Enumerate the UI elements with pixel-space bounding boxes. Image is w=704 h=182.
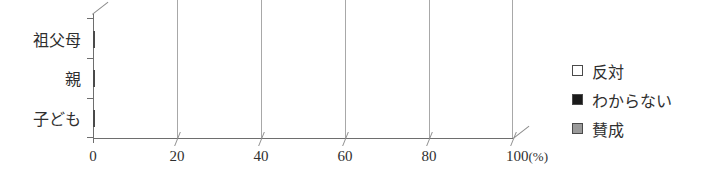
gridline-20: [177, 0, 178, 138]
legend-item-opposed: 反対: [572, 56, 700, 85]
legend-item-unknown: わからない: [572, 85, 700, 114]
y-axis-label-parents: 親: [65, 66, 81, 90]
y-axis-label-children: 子ども: [33, 106, 81, 130]
legend-swatch-agree-icon: [572, 123, 583, 134]
legend-item-agree: 賛成: [572, 114, 700, 143]
y-tick-2: [87, 98, 93, 99]
x-axis-label-40: 40: [254, 148, 269, 165]
legend-swatch-unknown-icon: [572, 94, 583, 105]
x-axis-label-0: 0: [89, 148, 97, 165]
plot-area: 祖父母 親 子ども 0 20 40 60 80 1: [93, 14, 513, 138]
x-axis-label-80: 80: [422, 148, 437, 165]
stacked-bar-chart-figure: 祖父母 親 子ども 0 20 40 60 80 1: [0, 0, 704, 182]
gridline-40: [261, 0, 262, 138]
gridline-80: [429, 0, 430, 138]
x-tick-0: [93, 138, 94, 143]
y-axis-label-grandparents: 祖父母: [33, 27, 81, 51]
x-axis-line: [93, 138, 513, 139]
perspective-edge-top-left: [92, 2, 108, 15]
y-tick-1: [87, 58, 93, 59]
x-axis-label-100: 100(%): [506, 148, 548, 165]
legend-swatch-opposed-icon: [572, 65, 583, 76]
chart-legend: 反対 わからない 賛成: [572, 56, 700, 143]
gridline-100: [512, 0, 513, 138]
legend-label-opposed: 反対: [592, 59, 624, 83]
x-axis-label-60: 60: [338, 148, 353, 165]
bar-row-children: [93, 110, 95, 127]
gridline-60: [345, 0, 346, 138]
legend-label-agree: 賛成: [592, 117, 624, 141]
x-axis-unit-label: (%): [529, 149, 549, 164]
x-axis-label-100-value: 100: [506, 148, 529, 164]
y-tick-0: [87, 18, 93, 19]
legend-label-unknown: わからない: [592, 88, 672, 112]
x-axis-label-20: 20: [170, 148, 185, 165]
bar-row-parents: [93, 70, 95, 87]
bar-row-grandparents: [93, 31, 95, 48]
